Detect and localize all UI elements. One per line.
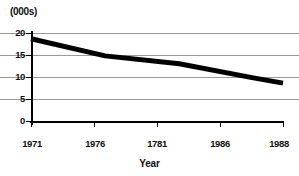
chart-container: (000s) 20 15 10 5 0 1971 1976 1781 1986 …: [0, 0, 299, 176]
data-series-line: [0, 0, 299, 176]
